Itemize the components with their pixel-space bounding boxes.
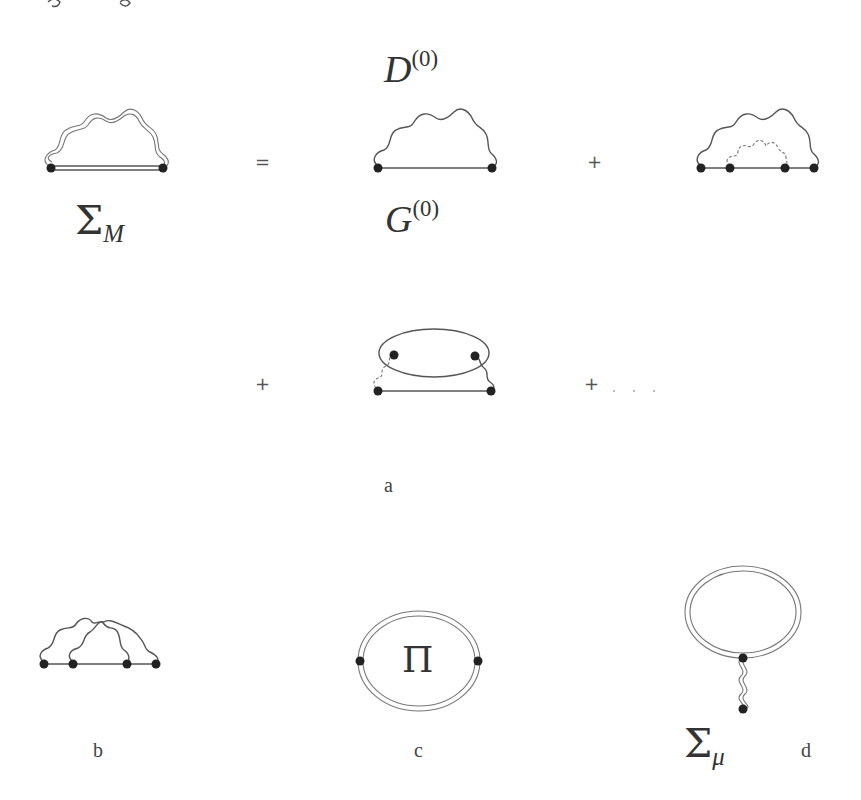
vertex-dot [159, 164, 168, 173]
equals-sign: = [255, 151, 270, 172]
feynman-diagrams-canvas: .ln { fill: none; stroke: #555; stroke-w… [0, 0, 861, 800]
vertex-dot [488, 164, 497, 173]
diagram-tadpole [685, 566, 801, 714]
vertex-dot [69, 660, 78, 669]
label-d0: D(0) [384, 46, 438, 91]
vertex-dot [781, 164, 790, 173]
diagram-polarization-insertion [374, 329, 496, 396]
vertex-dot [471, 352, 480, 361]
vertex-dot [390, 351, 399, 360]
label-g0: G(0) [385, 196, 439, 241]
label-sigma-mu: Σμ [684, 720, 725, 771]
diagram-sigma-m [45, 109, 168, 172]
caption-c: c [414, 739, 423, 762]
label-pi: Π [402, 639, 433, 680]
plus-sign: + [255, 373, 270, 394]
vertex-dot [726, 164, 735, 173]
diagram-first-order [374, 109, 497, 172]
vertex-dot [152, 660, 161, 669]
caption-d: d [801, 739, 811, 762]
clipped-header [48, 0, 130, 7]
diagram-crossed-photons [40, 618, 161, 668]
vertex-dot [374, 387, 383, 396]
diagram-rainbow [697, 109, 819, 172]
vertex-dot [739, 705, 748, 714]
plus-sign: + [587, 151, 602, 172]
vertex-dot [487, 387, 496, 396]
vertex-dot [123, 660, 132, 669]
vertex-dot [47, 164, 56, 173]
caption-a: a [384, 474, 393, 497]
ellipsis-dots [613, 390, 655, 392]
vertex-dot [697, 164, 706, 173]
vertex-dot [739, 654, 748, 663]
caption-b: b [93, 739, 103, 762]
vertex-dot [374, 164, 383, 173]
vertex-dot [356, 657, 365, 666]
vertex-dot [810, 164, 819, 173]
vertex-dot [474, 657, 483, 666]
label-sigma-m: ΣM [75, 197, 124, 248]
plus-sign: + [584, 373, 599, 394]
vertex-dot [40, 660, 49, 669]
